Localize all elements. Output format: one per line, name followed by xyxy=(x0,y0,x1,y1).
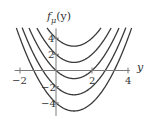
y-tick-label: −2 xyxy=(41,82,56,93)
curve-mu-4 xyxy=(47,28,101,46)
x-tick-label: 2 xyxy=(89,75,95,86)
y-tick-label: −4 xyxy=(41,98,56,109)
x-tick-label: 4 xyxy=(125,75,131,86)
curve-mu--4 xyxy=(16,28,131,111)
curves xyxy=(16,28,131,111)
x-axis-label: y xyxy=(136,61,144,74)
y-tick-label: 4 xyxy=(48,33,54,44)
parabola-family-chart: −224 42−2−4 fμ(y) y xyxy=(0,0,155,119)
x-tick-label: −2 xyxy=(12,75,27,86)
y-axis-label: fμ(y) xyxy=(46,10,71,25)
y-tick-label: 2 xyxy=(48,49,54,60)
curve-mu--2 xyxy=(22,28,126,95)
